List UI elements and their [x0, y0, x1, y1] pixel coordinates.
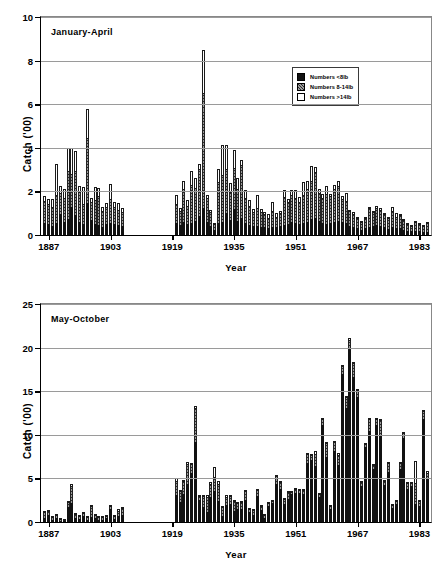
bar [310, 166, 313, 235]
bar-segment-small [240, 509, 243, 522]
bar-segment-small [360, 230, 363, 235]
bar-segment-mid [51, 208, 54, 227]
bar-segment-small [221, 222, 224, 235]
bar-segment-mid [252, 213, 255, 226]
bar [97, 516, 100, 522]
bar-segment-mid [271, 212, 274, 227]
bar [256, 195, 259, 235]
bar-segment-mid [117, 211, 120, 225]
x-axis-tick-label: 1967 [347, 241, 368, 252]
bar [43, 196, 46, 235]
bar [229, 495, 232, 522]
bar-segment-mid [113, 208, 116, 224]
bar-segment-mid [368, 420, 371, 431]
y-axis-tick [35, 104, 41, 105]
bar-segment-large [194, 178, 197, 189]
y-axis-tick-label: 5 [28, 473, 33, 484]
bar [341, 365, 344, 522]
bar [225, 495, 228, 522]
bar-segment-small [109, 223, 112, 235]
bar [298, 197, 301, 235]
x-axis-tick-label: 1983 [409, 528, 430, 539]
bar [217, 169, 220, 235]
bar-segment-large [325, 186, 328, 195]
bar [275, 475, 278, 522]
bar-segment-small [117, 516, 120, 522]
bar [209, 210, 212, 235]
legend-swatch-mid-icon [297, 83, 305, 91]
bar-segment-mid [244, 492, 247, 499]
bar-segment-large [302, 182, 305, 196]
gridline [41, 61, 431, 62]
chart-legend: Numbers <8lb Numbers 8-14lb Numbers >14l… [292, 67, 359, 106]
bar [182, 480, 185, 522]
bar-segment-mid [105, 208, 108, 224]
bar-segment-small [113, 519, 116, 522]
bar [225, 145, 228, 235]
bar-segment-small [229, 504, 232, 522]
bar-segment-large [51, 199, 54, 208]
bar [379, 208, 382, 235]
bar-segment-small [213, 491, 216, 522]
bar [422, 225, 425, 235]
bar-segment-mid [194, 189, 197, 221]
bar-segment-small [399, 228, 402, 235]
bar-segment-small [271, 503, 274, 522]
bar-segment-mid [356, 219, 359, 229]
bar [406, 482, 409, 522]
bar [352, 362, 355, 522]
bar-segment-small [190, 223, 193, 235]
bar-segment-mid [364, 219, 367, 229]
bar-segment-small [372, 469, 375, 522]
y-axis-tick-label: 4 [28, 142, 33, 153]
bar-series-may-october [41, 304, 431, 522]
bar-segment-small [175, 223, 178, 235]
bar-segment-mid [352, 215, 355, 227]
bar [360, 221, 363, 235]
bar-segment-mid [202, 497, 205, 507]
bar [240, 160, 243, 235]
x-axis-tick [172, 522, 173, 527]
bar [283, 190, 286, 235]
bar-segment-mid [182, 482, 185, 494]
bar-segment-small [74, 518, 77, 522]
bar-segment-small [240, 218, 243, 235]
bar [63, 519, 66, 522]
bar-segment-mid [345, 202, 348, 223]
bar [209, 482, 212, 522]
bar-segment-small [298, 224, 301, 235]
y-axis-tick [35, 522, 41, 523]
bar [318, 189, 321, 235]
bar-segment-mid [414, 484, 417, 504]
bar-segment-mid [395, 218, 398, 229]
bar [375, 206, 378, 235]
bar [198, 495, 201, 522]
bar [113, 202, 116, 235]
x-axis-tick [419, 235, 420, 240]
bar [287, 199, 290, 235]
bar-segment-mid [67, 172, 70, 219]
bar [221, 506, 224, 522]
bar-segment-small [368, 227, 371, 235]
bar-segment-small [383, 485, 386, 522]
bar [410, 482, 413, 522]
bar-segment-small [375, 225, 378, 235]
bar-segment-mid [379, 421, 382, 435]
bar-segment-small [175, 495, 178, 522]
bar [283, 498, 286, 522]
bar-segment-mid [55, 196, 58, 223]
bar-segment-small [402, 230, 405, 235]
bar-segment-mid [321, 199, 324, 223]
y-axis-tick [35, 391, 41, 392]
bar-segment-large [70, 148, 73, 175]
bar [414, 461, 417, 522]
bar-segment-small [345, 223, 348, 235]
bar-segment-small [325, 224, 328, 235]
bar-segment-mid [314, 173, 317, 218]
x-axis-title-top: Year [40, 262, 432, 273]
bar [179, 490, 182, 522]
bar [395, 500, 398, 522]
x-axis-tick-label: 1903 [100, 528, 121, 539]
bar-segment-small [290, 222, 293, 235]
bar [78, 186, 81, 235]
